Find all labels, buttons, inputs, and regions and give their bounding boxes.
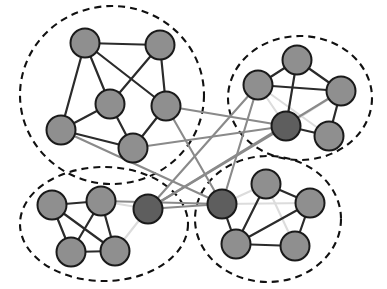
graph-node-n2[interactable] bbox=[146, 31, 175, 60]
graph-node-n14[interactable] bbox=[134, 195, 163, 224]
graph-node-n6[interactable] bbox=[119, 134, 148, 163]
graph-node-n13[interactable] bbox=[87, 187, 116, 216]
graph-node-n18[interactable] bbox=[252, 170, 281, 199]
graph-node-n10[interactable] bbox=[272, 112, 301, 141]
graph-node-n7[interactable] bbox=[283, 46, 312, 75]
inter-edge-n6-n10 bbox=[133, 126, 286, 148]
graph-node-n8[interactable] bbox=[244, 71, 273, 100]
nodes-layer bbox=[38, 29, 356, 267]
graph-node-n21[interactable] bbox=[281, 232, 310, 261]
graph-node-n3[interactable] bbox=[96, 90, 125, 119]
graph-node-n5[interactable] bbox=[47, 116, 76, 145]
network-graph-figure bbox=[0, 0, 387, 289]
inter-edge-n4-n10 bbox=[166, 106, 286, 126]
inter-edge-n4-n17 bbox=[166, 106, 222, 204]
graph-node-n11[interactable] bbox=[315, 122, 344, 151]
graph-node-n20[interactable] bbox=[222, 230, 251, 259]
network-graph-canvas bbox=[0, 0, 387, 289]
graph-node-n16[interactable] bbox=[101, 237, 130, 266]
graph-node-n12[interactable] bbox=[38, 191, 67, 220]
graph-node-n4[interactable] bbox=[152, 92, 181, 121]
graph-node-n15[interactable] bbox=[57, 238, 86, 267]
faint-edges-layer bbox=[101, 85, 341, 251]
graph-node-n9[interactable] bbox=[327, 77, 356, 106]
graph-node-n17[interactable] bbox=[208, 190, 237, 219]
graph-node-n1[interactable] bbox=[71, 29, 100, 58]
graph-node-n19[interactable] bbox=[296, 189, 325, 218]
